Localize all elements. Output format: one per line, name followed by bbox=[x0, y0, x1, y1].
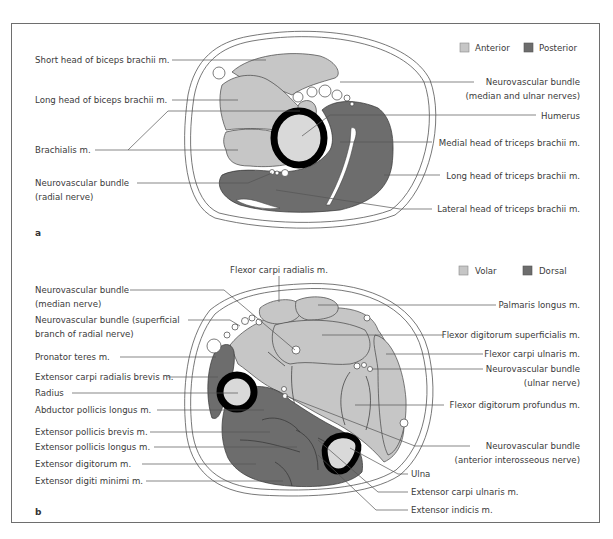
label-flexor-carpi-ulnaris: Flexor carpi ulnaris m. bbox=[484, 349, 580, 359]
label-extensor-carpi-ulnaris: Extensor carpi ulnaris m. bbox=[411, 487, 519, 497]
radius bbox=[220, 375, 254, 409]
flexor-digitorum-superficialis bbox=[272, 320, 370, 364]
label-medial-head-triceps: Medial head of triceps brachii m. bbox=[439, 138, 580, 148]
label-neurovascular-superficial-radial: Neurovascular bundle (superficial bbox=[35, 315, 180, 325]
label-neurovascular-anterior-interosseous: Neurovascular bundle bbox=[486, 441, 580, 451]
label-long-head-biceps: Long head of biceps brachii m. bbox=[35, 95, 167, 105]
legend-anterior-swatch bbox=[460, 43, 469, 52]
label-neurovascular-radial: Neurovascular bundle bbox=[35, 178, 129, 188]
label-extensor-digitorum: Extensor digitorum m. bbox=[35, 459, 131, 469]
label-median-nerve: (median nerve) bbox=[35, 299, 101, 309]
label-pronator-teres: Pronator teres m. bbox=[35, 352, 110, 362]
label-extensor-digiti-minimi: Extensor digiti minimi m. bbox=[35, 476, 143, 486]
label-anterior-interosseous-nerve: (anterior interosseous nerve) bbox=[455, 455, 580, 465]
label-ulnar-nerve: (ulnar nerve) bbox=[524, 378, 580, 388]
label-neurovascular-median: Neurovascular bundle bbox=[35, 285, 129, 295]
label-short-head-biceps: Short head of biceps brachii m. bbox=[35, 55, 170, 65]
legend-volar-swatch bbox=[459, 266, 468, 275]
label-lateral-head-triceps: Lateral head of triceps brachii m. bbox=[437, 204, 580, 214]
label-abductor-pollicis-longus: Abductor pollicis longus m. bbox=[35, 405, 151, 415]
panel-b: Flexor carpi radialis m. Neurovascular b… bbox=[35, 265, 580, 517]
label-radial-nerve: (radial nerve) bbox=[35, 192, 93, 202]
label-extensor-indicis: Extensor indicis m. bbox=[411, 505, 493, 515]
label-superficial-radial-nerve: branch of radial nerve) bbox=[35, 329, 134, 339]
panel-a-label: a bbox=[35, 228, 41, 238]
panel-b-label: b bbox=[35, 507, 42, 517]
cross-section-diagram: Short head of biceps brachii m. Long hea… bbox=[0, 0, 613, 539]
humerus bbox=[274, 111, 324, 165]
panel-a: Short head of biceps brachii m. Long hea… bbox=[35, 31, 581, 238]
label-extensor-pollicis-longus: Extensor pollicis longus m. bbox=[35, 442, 150, 452]
label-extensor-pollicis-brevis: Extensor pollicis brevis m. bbox=[35, 427, 148, 437]
label-neurovascular-ulnar: Neurovascular bundle bbox=[486, 364, 580, 374]
legend-volar-label: Volar bbox=[475, 266, 497, 276]
label-long-head-triceps: Long head of triceps brachii m. bbox=[446, 171, 580, 181]
label-fds: Flexor digitorum superficialis m. bbox=[442, 330, 580, 340]
palmaris-longus bbox=[296, 297, 339, 320]
label-ulna: Ulna bbox=[411, 469, 430, 479]
label-neurovascular-median-ulnar: Neurovascular bundle bbox=[486, 77, 580, 87]
label-ecrb: Extensor carpi radialis brevis m. bbox=[35, 372, 173, 382]
label-median-ulnar-nerves: (median and ulnar nerves) bbox=[466, 91, 580, 101]
legend-anterior-label: Anterior bbox=[475, 43, 510, 53]
legend-posterior-label: Posterior bbox=[539, 43, 577, 53]
legend-dorsal-swatch bbox=[523, 266, 532, 275]
label-humerus: Humerus bbox=[541, 111, 581, 121]
label-flexor-carpi-radialis: Flexor carpi radialis m. bbox=[230, 265, 328, 275]
label-palmaris-longus: Palmaris longus m. bbox=[498, 300, 580, 310]
legend-posterior-swatch bbox=[524, 43, 533, 52]
label-radius: Radius bbox=[35, 388, 64, 398]
label-fdp: Flexor digitorum profundus m. bbox=[450, 400, 580, 410]
legend-dorsal-label: Dorsal bbox=[539, 266, 567, 276]
label-brachialis: Brachialis m. bbox=[35, 145, 91, 155]
